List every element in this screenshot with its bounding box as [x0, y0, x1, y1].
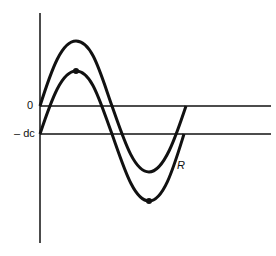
dc-offset-sine-diagram: 0 – dc R [0, 0, 276, 256]
trough-marker [146, 198, 152, 204]
lower-sine-curve [40, 71, 184, 201]
diagram-graphic [0, 0, 276, 256]
curve-r-label: R [177, 159, 185, 171]
minus-dc-label: – dc [14, 127, 35, 139]
peak-marker [73, 68, 79, 74]
zero-label: 0 [27, 99, 33, 111]
